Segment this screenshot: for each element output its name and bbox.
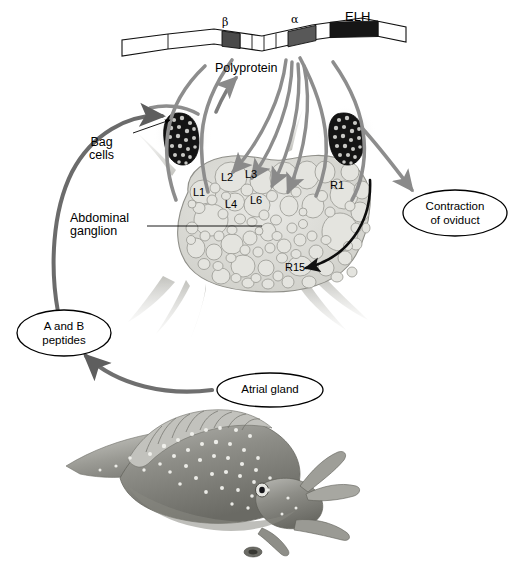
atrial-to-peptides-arrow bbox=[86, 356, 212, 392]
neuron-label-L3: L3 bbox=[245, 168, 257, 180]
callout-label-atrial-gland: Atrial gland bbox=[217, 383, 323, 397]
callout-label-contraction: Contraction of oviduct bbox=[403, 200, 507, 227]
neuron-label-L1: L1 bbox=[193, 186, 205, 198]
neuron-label-L2: L2 bbox=[221, 171, 233, 183]
polyprotein-label: Polyprotein bbox=[215, 62, 278, 75]
neuron-label-L6: L6 bbox=[250, 194, 262, 206]
neuron-label-R1: R1 bbox=[330, 179, 344, 191]
neuron-label-R15: R15 bbox=[285, 261, 305, 273]
neuron-label-L4: L4 bbox=[225, 198, 237, 210]
segment-beta-label: β bbox=[222, 16, 228, 29]
abdominal-ganglion-label: Abdominal ganglion bbox=[70, 212, 129, 238]
callout-label-peptides: A and B peptides bbox=[17, 320, 111, 347]
segment-elh-label: ELH bbox=[345, 10, 370, 23]
aplysia-illustration bbox=[66, 410, 360, 557]
diagram-svg bbox=[0, 0, 518, 576]
bag-cells-label: Bag cells bbox=[89, 136, 114, 162]
segment-alpha-label: α bbox=[291, 13, 298, 26]
figure-canvas: β α ELH Polyprotein Bag cells Abdominal … bbox=[0, 0, 518, 576]
segment-alpha bbox=[288, 25, 316, 46]
segment-beta bbox=[222, 31, 240, 49]
